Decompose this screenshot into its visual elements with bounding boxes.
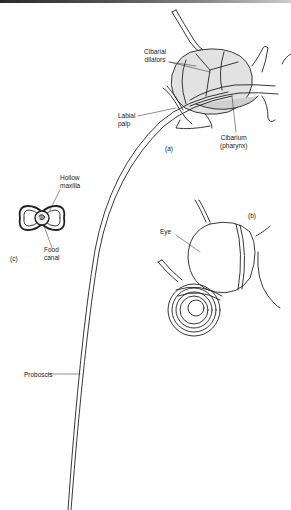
- label-line: Cibarial: [144, 48, 166, 56]
- label-line: palp: [118, 120, 135, 128]
- label-cibarium: Cibarium (pharynx): [220, 134, 247, 149]
- label-labial-palp: Labial palp: [118, 112, 135, 127]
- panel-a-label: (a): [165, 145, 173, 153]
- label-line: Food: [44, 246, 60, 254]
- panel-c-cross-section-illustration: [20, 190, 65, 248]
- label-line: Cibarium: [220, 134, 247, 142]
- label-eye: Eye: [160, 228, 171, 236]
- panel-b-label: (b): [248, 212, 256, 220]
- panel-c-label: (c): [10, 255, 18, 263]
- label-line: Labial: [118, 112, 135, 120]
- proboscis-illustration: [68, 92, 232, 510]
- label-line: canal: [44, 254, 60, 262]
- label-line: Hollow: [60, 174, 80, 182]
- label-line: (pharynx): [220, 142, 247, 150]
- label-hollow-maxilla: Hollow maxilla: [60, 174, 80, 189]
- label-line: maxilla: [60, 182, 80, 190]
- label-line: dilators: [144, 56, 166, 64]
- label-proboscis: Proboscis: [24, 371, 53, 379]
- panel-a-head-illustration: [163, 10, 291, 129]
- panel-b-head-illustration: [158, 200, 280, 336]
- label-food-canal: Food canal: [44, 246, 60, 261]
- label-cibarial-dilators: Cibarial dilators: [144, 48, 166, 63]
